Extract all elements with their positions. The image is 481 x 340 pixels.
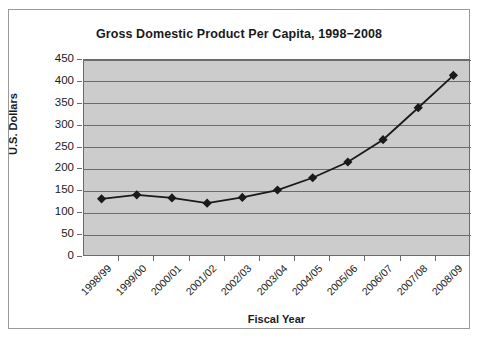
y-tick-label: 450: [34, 52, 74, 64]
x-tick-mark: [435, 256, 436, 261]
y-axis-title: U.S. Dollars: [7, 44, 19, 204]
y-tick-label: 200: [34, 161, 74, 173]
y-tick-mark: [77, 190, 82, 191]
y-tick-label: 50: [34, 227, 74, 239]
y-tick-mark: [77, 212, 82, 213]
y-tick-mark: [77, 147, 82, 148]
x-tick-mark: [224, 256, 225, 261]
data-point-marker: [273, 185, 282, 194]
x-tick-mark: [329, 256, 330, 261]
x-axis-title: Fiscal Year: [83, 313, 470, 325]
y-tick-label: 150: [34, 183, 74, 195]
x-tick-mark: [259, 256, 260, 261]
y-tick-mark: [77, 234, 82, 235]
data-point-marker: [97, 194, 106, 203]
data-point-marker: [167, 193, 176, 202]
data-line: [102, 75, 454, 203]
y-tick-label: 300: [34, 118, 74, 130]
data-point-marker: [343, 157, 352, 166]
y-tick-mark: [77, 256, 82, 257]
y-tick-mark: [77, 103, 82, 104]
chart-frame: Gross Domestic Product Per Capita, 1998−…: [8, 9, 470, 329]
data-point-marker: [203, 199, 212, 208]
y-tick-label: 400: [34, 74, 74, 86]
y-tick-label: 100: [34, 205, 74, 217]
y-tick-mark: [77, 168, 82, 169]
y-tick-label: 250: [34, 140, 74, 152]
y-tick-label: 0: [34, 249, 74, 261]
x-tick-mark: [153, 256, 154, 261]
data-point-marker: [238, 193, 247, 202]
y-tick-mark: [77, 125, 82, 126]
y-tick-label: 350: [34, 96, 74, 108]
x-tick-mark: [364, 256, 365, 261]
y-tick-mark: [77, 81, 82, 82]
x-tick-mark: [400, 256, 401, 261]
data-point-marker: [308, 173, 317, 182]
plot-area: [83, 59, 470, 256]
x-tick-mark: [189, 256, 190, 261]
chart-title: Gross Domestic Product Per Capita, 1998−…: [9, 27, 469, 41]
x-tick-mark: [294, 256, 295, 261]
x-tick-mark: [118, 256, 119, 261]
plot-svg: [84, 60, 471, 257]
y-tick-mark: [77, 59, 82, 60]
